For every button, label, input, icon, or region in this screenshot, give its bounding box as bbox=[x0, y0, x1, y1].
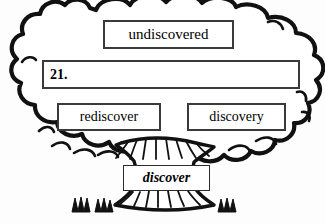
word-box-root-discover: discover bbox=[123, 165, 210, 191]
word-box-rediscover-label: rediscover bbox=[80, 110, 138, 124]
word-box-root-discover-label: discover bbox=[143, 171, 190, 185]
word-box-discovery-label: discovery bbox=[209, 110, 263, 124]
word-box-discovery: discovery bbox=[187, 103, 286, 131]
worksheet-page: undiscovered 21. rediscover discovery di… bbox=[0, 0, 325, 224]
answer-number-label: 21. bbox=[50, 68, 68, 82]
word-box-undiscovered: undiscovered bbox=[103, 20, 234, 49]
word-box-rediscover: rediscover bbox=[57, 103, 161, 131]
answer-blank-box-21[interactable]: 21. bbox=[42, 60, 300, 89]
word-box-undiscovered-label: undiscovered bbox=[129, 27, 209, 42]
